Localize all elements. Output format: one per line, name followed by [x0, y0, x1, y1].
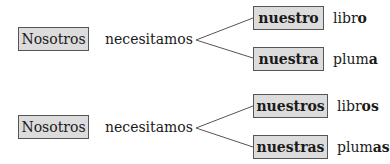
noun-label: plumas: [337, 139, 390, 155]
noun-stem: plum: [333, 51, 369, 67]
adjective-box: nuestra: [253, 47, 324, 71]
adjective-label: nuestras: [257, 139, 325, 155]
noun-label: libro: [333, 10, 367, 26]
adjective-label: nuestra: [258, 51, 318, 67]
noun-label: pluma: [333, 51, 378, 67]
noun-stem: plum: [337, 139, 373, 155]
subject-box: Nosotros: [18, 115, 89, 139]
noun-ending: a: [369, 51, 378, 67]
noun-stem: libr: [337, 98, 362, 114]
noun-stem: libr: [333, 10, 358, 26]
subject-label: Nosotros: [21, 119, 85, 135]
adjective-box: nuestras: [253, 135, 328, 159]
noun-ending: o: [358, 10, 367, 26]
adjective-label: nuestro: [258, 10, 318, 26]
noun-label: libros: [337, 98, 379, 114]
subject-box: Nosotros: [18, 27, 89, 51]
subject-label: Nosotros: [21, 31, 85, 47]
noun-ending: os: [362, 98, 379, 114]
adjective-box: nuestros: [253, 94, 328, 118]
adjective-box: nuestro: [253, 6, 324, 30]
verb-label: necesitamos: [105, 119, 193, 135]
noun-ending: as: [373, 139, 390, 155]
adjective-label: nuestros: [256, 98, 324, 114]
verb-label: necesitamos: [105, 31, 193, 47]
